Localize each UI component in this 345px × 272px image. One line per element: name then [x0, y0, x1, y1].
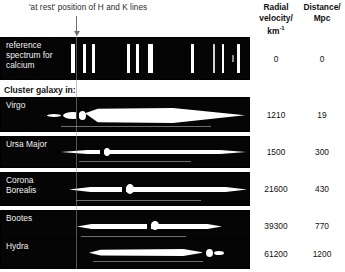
bootes-galaxy-streak	[1, 211, 249, 241]
table-row-ursa-major: Ursa Major 1500 300	[0, 136, 345, 168]
corona-borealis-radial-velocity: 21600	[253, 184, 299, 194]
reference-spectrum-panel: reference spectrum for calcium	[0, 37, 250, 80]
reference-distance: 0	[299, 54, 345, 64]
radial-velocity-header-line2: velocity/	[259, 13, 293, 23]
corona-borealis-label: Corona Borealis	[6, 175, 36, 195]
corona-borealis-data-cells: 21600 430	[253, 172, 345, 206]
virgo-radial-velocity: 1210	[253, 110, 299, 120]
virgo-spectrum-panel: Virgo	[0, 97, 250, 132]
spectral-line	[127, 44, 130, 74]
table-row-virgo: Virgo 1210 19	[0, 97, 345, 132]
ursa-major-distance: 300	[299, 147, 345, 157]
radial-velocity-header-unit: km	[267, 26, 279, 36]
bootes-spectrum-panel: Bootes	[0, 210, 250, 242]
spectral-line	[92, 44, 95, 74]
down-arrow-icon	[76, 16, 77, 35]
reference-radial-velocity: 0	[253, 54, 299, 64]
virgo-label: Virgo	[6, 100, 25, 110]
spectral-line	[237, 44, 240, 74]
bootes-label: Bootes	[6, 213, 32, 223]
virgo-galaxy-streak	[1, 98, 249, 131]
ursa-major-label: Ursa Major	[6, 139, 47, 149]
radial-velocity-header-exponent: -1	[279, 25, 284, 31]
radial-velocity-header: Radial velocity/ km-1	[253, 2, 299, 36]
table-row-hydra: Hydra 61200 1200	[0, 238, 345, 269]
ursa-major-spectrum-panel: Ursa Major	[0, 136, 250, 168]
column-headers: Radial velocity/ km-1 Distance/ Mpc	[253, 2, 345, 36]
hydra-distance: 1200	[299, 249, 345, 259]
table-row-reference: reference spectrum for calcium 0 0	[0, 37, 345, 80]
spectral-line	[213, 44, 215, 74]
spectral-line	[83, 44, 86, 74]
spectral-line	[232, 55, 234, 62]
virgo-distance: 19	[299, 110, 345, 120]
cluster-galaxy-heading: Cluster galaxy in:	[4, 85, 76, 95]
hydra-galaxy-streak	[1, 239, 249, 268]
distance-header: Distance/ Mpc	[299, 2, 345, 36]
hydra-radial-velocity: 61200	[253, 249, 299, 259]
hydra-data-cells: 61200 1200	[253, 238, 345, 269]
reference-data-cells: 0 0	[253, 37, 345, 80]
bootes-radial-velocity: 39300	[253, 221, 299, 231]
corona-borealis-galaxy-streak	[1, 173, 249, 205]
rest-position-annotation: 'at rest' position of H and K lines	[29, 3, 147, 12]
table-row-corona-borealis: Corona Borealis 21600 430	[0, 172, 345, 206]
reference-spectrum-label: reference spectrum for calcium	[6, 40, 53, 70]
spectral-line	[148, 44, 153, 74]
distance-header-line2: Mpc	[314, 13, 331, 23]
virgo-data-cells: 1210 19	[253, 97, 345, 132]
ursa-major-data-cells: 1500 300	[253, 136, 345, 168]
corona-borealis-distance: 430	[299, 184, 345, 194]
ursa-major-radial-velocity: 1500	[253, 147, 299, 157]
spectral-line	[191, 44, 194, 74]
hydra-spectrum-panel: Hydra	[0, 238, 250, 269]
bootes-distance: 770	[299, 221, 345, 231]
radial-velocity-header-line1: Radial	[263, 2, 288, 12]
spectral-line	[71, 44, 75, 74]
corona-borealis-spectrum-panel: Corona Borealis	[0, 172, 250, 206]
spectral-line	[136, 44, 139, 74]
spectral-line	[222, 44, 224, 74]
distance-header-line1: Distance/	[303, 2, 340, 12]
hydra-label: Hydra	[6, 241, 28, 251]
redshift-spectra-figure: 'at rest' position of H and K lines Radi…	[0, 0, 345, 272]
